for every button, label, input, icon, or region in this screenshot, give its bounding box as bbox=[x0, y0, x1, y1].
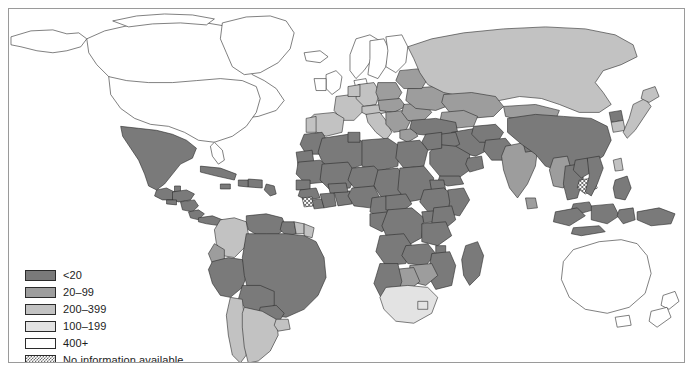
country-suriname bbox=[294, 222, 304, 234]
legend-swatch-200-399 bbox=[25, 304, 56, 315]
legend-row: <20 bbox=[25, 267, 245, 284]
legend-label-no-information: No information available bbox=[63, 355, 183, 363]
country-el-salvador bbox=[167, 200, 177, 205]
map-legend: <20 20–99 200–399 100–199 400+ No inform bbox=[25, 267, 245, 363]
legend-label-200-399: 200–399 bbox=[63, 304, 107, 315]
legend-row: 20–99 bbox=[25, 284, 245, 301]
legend-label-lt20: <20 bbox=[63, 270, 82, 281]
legend-row: 100–199 bbox=[25, 318, 245, 335]
country-sri-lanka bbox=[525, 198, 537, 209]
country-taiwan bbox=[613, 158, 623, 171]
country-tunisia bbox=[348, 132, 360, 142]
legend-row: No information available bbox=[25, 352, 245, 363]
legend-swatch-100-199 bbox=[25, 321, 56, 332]
country-lesotho bbox=[418, 301, 428, 309]
legend-row: 200–399 bbox=[25, 301, 245, 318]
country-senegal-gambia bbox=[296, 180, 310, 190]
country-ireland bbox=[314, 79, 326, 91]
country-burkina-faso bbox=[328, 183, 348, 193]
legend-label-20-99: 20–99 bbox=[63, 287, 94, 298]
country-egypt bbox=[396, 140, 428, 168]
legend-swatch-400plus bbox=[25, 338, 56, 349]
map-frame: <20 20–99 200–399 100–199 400+ No inform bbox=[8, 8, 685, 363]
world-map-figure: <20 20–99 200–399 100–199 400+ No inform bbox=[0, 0, 697, 378]
country-jamaica bbox=[220, 184, 230, 189]
legend-swatch-no-information bbox=[25, 355, 56, 363]
country-haiti bbox=[238, 180, 248, 187]
legend-label-100-199: 100–199 bbox=[63, 321, 107, 332]
country-portugal bbox=[306, 116, 316, 132]
legend-row: 400+ bbox=[25, 335, 245, 352]
legend-label-400plus: 400+ bbox=[63, 338, 88, 349]
country-tasmania bbox=[615, 315, 631, 327]
legend-swatch-20-99 bbox=[25, 287, 56, 298]
country-venezuela bbox=[246, 214, 286, 236]
country-netherlands-belgium bbox=[348, 85, 360, 97]
country-south-korea bbox=[611, 120, 625, 132]
country-dominican-republic bbox=[248, 179, 262, 188]
legend-swatch-lt20 bbox=[25, 270, 56, 281]
